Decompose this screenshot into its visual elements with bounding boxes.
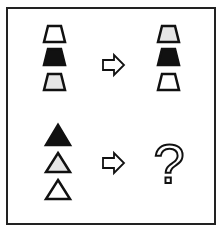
- trapezoid-gray: [158, 26, 179, 42]
- triangle-white: [46, 180, 70, 199]
- puzzle-diagram: ?: [0, 0, 224, 233]
- trapezoid-black: [44, 49, 65, 65]
- arrow-right-icon: [103, 55, 124, 75]
- trapezoid-white: [44, 26, 65, 42]
- triangle-black: [46, 125, 70, 145]
- row2-left-shapes: [46, 125, 70, 199]
- row1-right-shapes: [158, 26, 179, 90]
- row1-left-shapes: [44, 26, 65, 90]
- trapezoid-black: [158, 49, 179, 65]
- arrow-right-icon: [103, 153, 124, 173]
- question-mark: ?: [153, 132, 184, 195]
- triangle-gray: [46, 153, 70, 172]
- trapezoid-white: [158, 74, 179, 90]
- trapezoid-gray: [44, 74, 65, 90]
